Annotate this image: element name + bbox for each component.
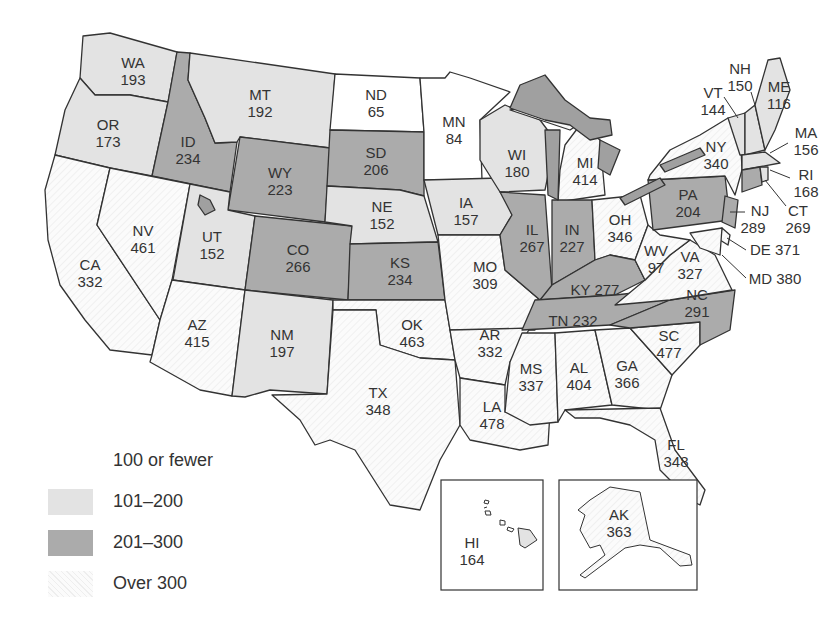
label-tn: TN 232 — [548, 312, 597, 329]
label-mo: MO309 — [472, 258, 497, 292]
label-ok: OK463 — [399, 316, 424, 350]
legend-label: 101–200 — [113, 491, 183, 512]
legend-item: Over 300 — [48, 563, 213, 604]
legend-swatch-over-300 — [48, 571, 93, 597]
label-md: MD 380 — [749, 270, 802, 287]
label-pa: PA204 — [675, 186, 700, 220]
label-mn: MN84 — [442, 113, 465, 147]
label-nv: NV461 — [130, 222, 155, 256]
label-me: ME116 — [767, 78, 791, 112]
label-nh: NH150 — [727, 60, 752, 94]
inset-hawaii: HI164 — [441, 480, 543, 590]
label-va: VA327 — [677, 248, 702, 282]
legend-swatch-201-300 — [48, 530, 93, 556]
state-ri — [760, 167, 768, 182]
label-tx: TX348 — [365, 384, 390, 418]
label-ms: MS337 — [518, 360, 543, 394]
state-ct — [742, 167, 762, 192]
legend-item: 100 or fewer — [48, 440, 213, 481]
legend-item: 101–200 — [48, 481, 213, 522]
label-ca: CA332 — [77, 256, 102, 290]
label-ri: RI168 — [793, 166, 818, 200]
label-or: OR173 — [95, 116, 120, 150]
label-vt: VT144 — [700, 84, 725, 118]
label-sd: SD206 — [363, 144, 388, 178]
label-nd: ND65 — [365, 86, 387, 120]
label-wa: WA193 — [120, 54, 145, 88]
label-nj-value: 289 — [740, 219, 765, 236]
label-ny: NY340 — [703, 138, 728, 172]
label-wy: WY223 — [267, 164, 292, 198]
legend-label: 201–300 — [113, 532, 183, 553]
legend-swatch-101-200 — [48, 489, 93, 515]
label-mt: MT192 — [247, 86, 272, 120]
legend: 100 or fewer 101–200 201–300 Over 300 — [48, 440, 213, 604]
label-de: DE 371 — [750, 241, 800, 258]
label-co: CO266 — [285, 241, 310, 275]
label-nm: NM197 — [269, 326, 294, 360]
label-ga: GA366 — [614, 357, 639, 391]
label-ks: KS234 — [387, 254, 412, 288]
label-wi: WI180 — [504, 146, 529, 180]
label-az: AZ415 — [184, 316, 209, 350]
inset-alaska: AK363 — [559, 480, 697, 590]
label-la: LA478 — [479, 398, 504, 432]
label-nc: NC291 — [684, 286, 709, 320]
label-ma: MA156 — [793, 124, 818, 158]
legend-label: 100 or fewer — [113, 450, 213, 471]
legend-swatch-100-or-fewer — [48, 448, 93, 474]
label-ne: NE152 — [369, 198, 394, 232]
label-ct: CT269 — [785, 202, 810, 236]
label-ak: AK363 — [606, 506, 631, 540]
label-ky: KY 277 — [571, 281, 620, 298]
label-fl: FL348 — [663, 436, 688, 470]
label-nj: NJ — [751, 202, 769, 219]
legend-item: 201–300 — [48, 522, 213, 563]
label-ut: UT152 — [199, 228, 224, 262]
legend-label: Over 300 — [113, 573, 187, 594]
label-al: AL404 — [566, 359, 591, 393]
label-oh: OH346 — [607, 211, 632, 245]
label-ar: AR332 — [477, 326, 502, 360]
label-sc: SC477 — [656, 327, 681, 361]
